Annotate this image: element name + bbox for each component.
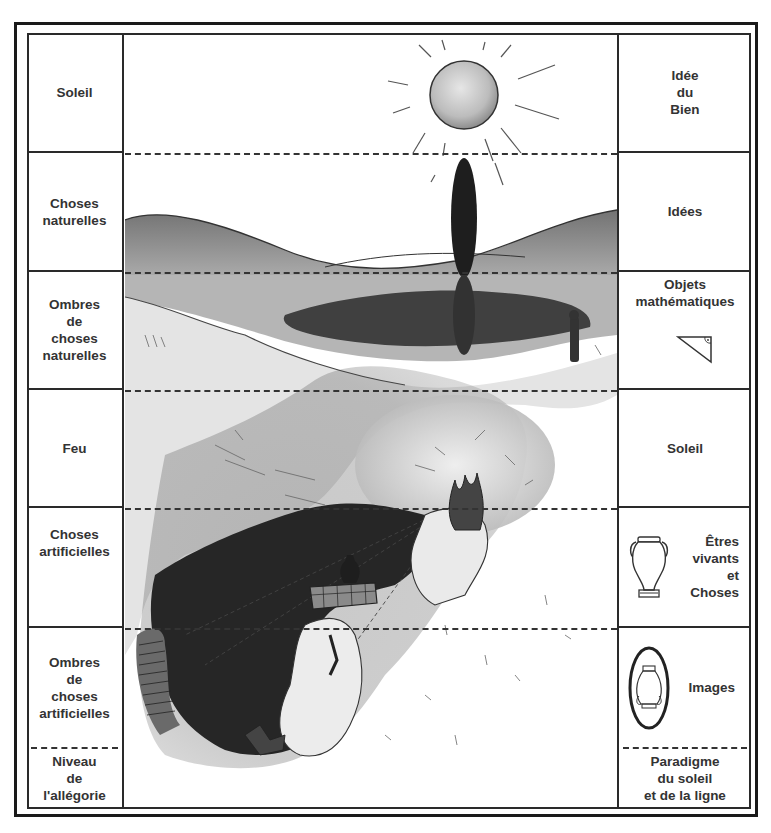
right-label: Idée du Bien (670, 67, 699, 118)
cypress-tree-icon (451, 158, 477, 278)
framed-vase-icon (627, 644, 671, 732)
allegory-level-column: Soleil Choses naturelles Ombres de chose… (27, 33, 124, 809)
level-divider (125, 390, 617, 392)
right-label: Images (688, 679, 735, 696)
right-footer-label: Paradigme du soleil et de la ligne (644, 753, 726, 804)
right-label: Objets mathématiques (635, 276, 734, 310)
left-label: Soleil (56, 84, 92, 101)
right-footer: Paradigme du soleil et de la ligne (619, 749, 751, 807)
level-divider (125, 272, 617, 274)
right-label: Idées (668, 203, 703, 220)
left-cell-choses-artificielles: Choses artificielles (27, 508, 122, 628)
amphora-icon (627, 534, 671, 600)
right-label: Soleil (667, 440, 703, 457)
left-cell-ombres-naturelles: Ombres de choses naturelles (27, 272, 122, 390)
right-cell-objets-mathematiques: Objets mathématiques (619, 272, 751, 390)
left-label: Choses naturelles (43, 195, 107, 229)
right-cell-etres-vivants: Êtres vivants et Choses (619, 508, 751, 628)
level-divider (125, 153, 617, 155)
level-divider (125, 508, 617, 510)
right-cell-idee-du-bien: Idée du Bien (619, 33, 751, 153)
right-triangle-icon (675, 334, 715, 364)
sun-icon (388, 40, 559, 185)
paradigm-column: Idée du Bien Idées Objets mathématiques … (617, 33, 751, 809)
right-cell-idees: Idées (619, 153, 751, 272)
left-footer-label: Niveau de l'allégorie (43, 753, 105, 804)
left-footer: Niveau de l'allégorie (27, 749, 122, 807)
right-cell-soleil: Soleil (619, 390, 751, 508)
left-cell-feu: Feu (27, 390, 122, 508)
fire-icon (449, 473, 483, 530)
right-label: Êtres vivants et Choses (690, 533, 739, 601)
left-label: Ombres de choses naturelles (43, 296, 107, 364)
left-cell-soleil: Soleil (27, 33, 122, 153)
left-label: Feu (62, 440, 86, 457)
cave-allegory-illustration (125, 35, 617, 807)
left-cell-ombres-artificielles: Ombres de choses artificielles (31, 628, 118, 749)
level-divider (125, 628, 617, 630)
left-label: Ombres de choses artificielles (39, 654, 110, 722)
left-label: Choses artificielles (39, 526, 110, 560)
left-cell-choses-naturelles: Choses naturelles (27, 153, 122, 272)
right-cell-images: Images (623, 628, 747, 749)
